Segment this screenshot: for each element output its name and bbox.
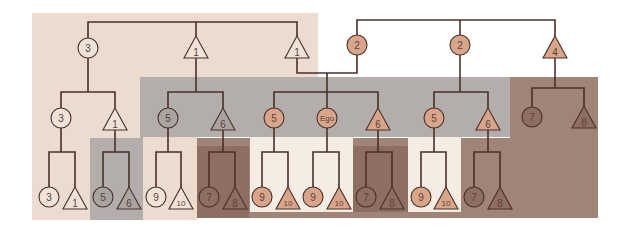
node-label: 10 [284, 199, 293, 208]
female-node: 9 [303, 187, 323, 207]
node-label: 5 [165, 113, 171, 124]
node-label: 5 [100, 192, 106, 203]
node-label: 8 [232, 198, 238, 209]
node-label: 4 [552, 47, 558, 58]
female-node: 5 [264, 108, 284, 128]
node-label: 2 [354, 40, 360, 51]
female-node: 9 [146, 187, 166, 207]
female-node: 7 [356, 187, 376, 207]
female-node: 3 [39, 187, 59, 207]
female-node: 5 [424, 108, 444, 128]
node-label: 8 [389, 198, 395, 209]
node-label: 8 [581, 117, 587, 128]
female-node: 2 [450, 35, 470, 55]
node-label: 8 [497, 198, 503, 209]
node-label: 7 [206, 192, 212, 203]
node-label: 3 [85, 43, 91, 54]
male-node: 4 [543, 36, 567, 58]
node-label: 7 [471, 192, 477, 203]
node-label: 10 [177, 199, 186, 208]
node-label: 9 [259, 192, 265, 203]
female-node: 7 [199, 187, 219, 207]
node-label: 7 [363, 192, 369, 203]
node-label: Ego [320, 114, 335, 123]
node-label: 3 [46, 192, 52, 203]
female-node: 3 [78, 38, 98, 58]
node-label: 5 [431, 113, 437, 124]
node-label: 2 [457, 40, 463, 51]
female-node: 3 [51, 108, 71, 128]
node-label: 9 [418, 192, 424, 203]
node-label: 10 [442, 199, 451, 208]
female-node: 9 [252, 187, 272, 207]
node-label: 6 [220, 119, 226, 130]
node-label: 1 [294, 47, 300, 58]
node-label: 9 [153, 192, 159, 203]
node-label: 6 [375, 119, 381, 130]
female-node: 7 [522, 107, 542, 127]
female-node: 9 [411, 187, 431, 207]
node-label: 9 [310, 192, 316, 203]
female-node-ego: Ego [317, 108, 337, 128]
node-label: 5 [271, 113, 277, 124]
node-label: 1 [193, 47, 199, 58]
female-node: 5 [158, 108, 178, 128]
node-label: 10 [335, 199, 344, 208]
node-label: 1 [112, 119, 118, 130]
node-label: 7 [529, 112, 535, 123]
node-label: 3 [58, 113, 64, 124]
kinship-diagram: 31122431565Ego65678315691078910910789107… [0, 0, 628, 229]
node-label: 6 [485, 119, 491, 130]
female-node: 7 [464, 187, 484, 207]
node-label: 1 [72, 198, 78, 209]
female-node: 5 [93, 187, 113, 207]
node-label: 6 [126, 198, 132, 209]
female-node: 2 [347, 35, 367, 55]
